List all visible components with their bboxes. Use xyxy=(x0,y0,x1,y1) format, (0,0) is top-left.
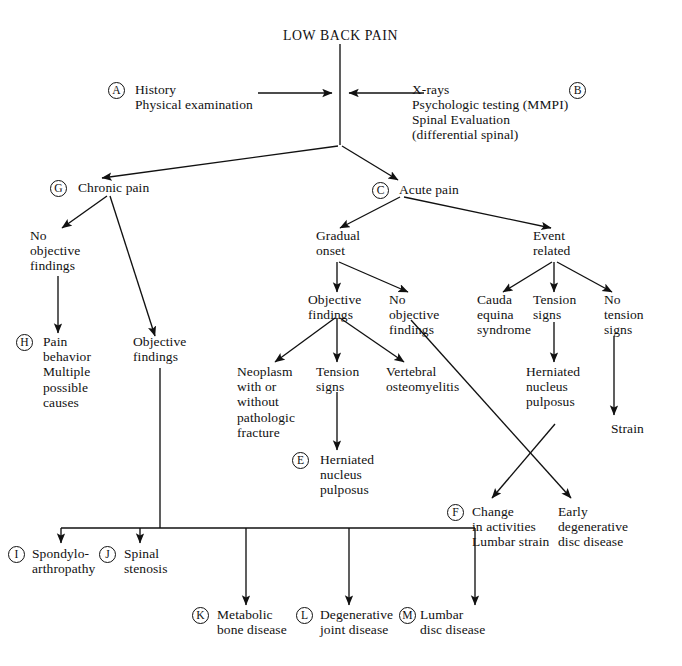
key-letter-b[interactable]: B xyxy=(569,82,586,99)
node-acute-pain: Acute pain xyxy=(399,182,459,197)
key-letter-l[interactable]: L xyxy=(296,607,313,624)
edge-gradual-to-no-objective xyxy=(339,262,408,292)
node-psychologic-testing: Psychologic testing (MMPI) xyxy=(412,97,568,112)
node-herniated-nucleus-pulposus-e: Herniated nucleus pulposus xyxy=(320,452,374,498)
node-vertebral-osteomyelitis: Vertebral osteomyelitis xyxy=(386,364,459,394)
node-gradual-onset: Gradual onset xyxy=(316,228,360,258)
node-strain: Strain xyxy=(611,421,644,436)
edge-root-to-chronic xyxy=(102,146,338,178)
key-letter-k[interactable]: K xyxy=(192,607,209,624)
node-physical-examination: Physical examination xyxy=(135,97,253,112)
node-objective-findings-chronic: Objective findings xyxy=(133,334,186,364)
key-letter-j[interactable]: J xyxy=(99,546,116,563)
key-letter-i[interactable]: I xyxy=(8,546,25,563)
node-event-related: Event related xyxy=(533,228,570,258)
node-history: History xyxy=(135,82,176,97)
edge-chronic-to-no-objective xyxy=(62,196,107,228)
edge-event-to-no-tension xyxy=(557,262,612,292)
node-chronic-pain: Chronic pain xyxy=(78,180,149,195)
node-change-in-activities: Change in activities Lumbar strain xyxy=(472,504,549,550)
node-spinal-stenosis: Spinal stenosis xyxy=(124,546,168,576)
flowchart-connectors xyxy=(0,0,682,666)
node-no-tension-signs: No tension signs xyxy=(604,292,644,338)
node-cauda-equina-syndrome: Cauda equina syndrome xyxy=(477,292,531,338)
key-letter-g[interactable]: G xyxy=(50,180,67,197)
page-title: LOW BACK PAIN xyxy=(283,28,398,44)
node-no-objective-findings-chronic: No objective findings xyxy=(30,228,80,274)
key-letter-h[interactable]: H xyxy=(16,334,33,351)
edge-root-to-acute xyxy=(342,146,398,180)
node-degenerative-joint-disease: Degenerative joint disease xyxy=(320,607,393,637)
edge-objective-to-neoplasm xyxy=(275,318,335,362)
node-tension-signs-gradual: Tension signs xyxy=(316,364,359,394)
node-tension-signs-event: Tension signs xyxy=(533,292,576,322)
edge-chronic-to-objective xyxy=(110,196,155,336)
node-xrays: X-rays xyxy=(412,82,449,97)
node-differential-spinal: (differential spinal) xyxy=(412,127,518,142)
node-neoplasm: Neoplasm with or without pathologic frac… xyxy=(237,364,295,440)
node-spinal-evaluation: Spinal Evaluation xyxy=(412,112,510,127)
node-lumbar-disc-disease: Lumbar disc disease xyxy=(420,607,485,637)
diagram-canvas: LOW BACK PAIN A History Physical examina… xyxy=(0,0,682,666)
key-letter-e[interactable]: E xyxy=(292,452,309,469)
key-letter-c[interactable]: C xyxy=(372,182,389,199)
node-herniated-nucleus-pulposus-event: Herniated nucleus pulposus xyxy=(526,364,580,410)
node-metabolic-bone-disease: Metabolic bone disease xyxy=(217,607,287,637)
edge-to-change-in-activities xyxy=(492,424,555,498)
node-pain-behavior: Pain behavior Multiple possible causes xyxy=(43,334,91,410)
key-letter-m[interactable]: M xyxy=(399,607,416,624)
node-early-degenerative-disc-disease: Early degenerative disc disease xyxy=(558,504,628,550)
node-objective-findings-gradual: Objective findings xyxy=(308,292,361,322)
edge-event-to-cauda xyxy=(503,262,552,292)
key-letter-f[interactable]: F xyxy=(447,504,464,521)
key-letter-a[interactable]: A xyxy=(108,82,125,99)
node-no-objective-findings-gradual: No objective findings xyxy=(389,292,439,338)
edge-acute-to-gradual xyxy=(340,197,400,228)
node-spondyloarthropathy: Spondylo- arthropathy xyxy=(32,546,95,576)
edge-acute-to-event xyxy=(404,197,551,228)
